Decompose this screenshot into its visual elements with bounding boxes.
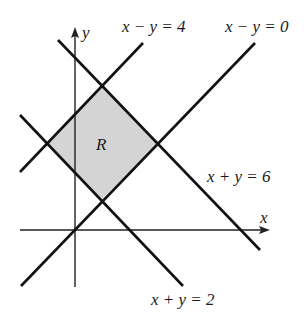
y-axis-label: y <box>80 23 90 42</box>
line-x-minus-y-0 <box>21 43 255 286</box>
region-diagram: R y x x − y = 4 x − y = 0 x + y = 6 x + … <box>0 0 306 321</box>
label-x-minus-y-4: x − y = 4 <box>121 17 186 36</box>
label-x-plus-y-6: x + y = 6 <box>206 167 271 186</box>
label-x-minus-y-0: x − y = 0 <box>224 17 289 36</box>
region-label: R <box>95 135 107 154</box>
label-x-plus-y-2: x + y = 2 <box>150 290 215 309</box>
x-axis-label: x <box>259 208 268 227</box>
